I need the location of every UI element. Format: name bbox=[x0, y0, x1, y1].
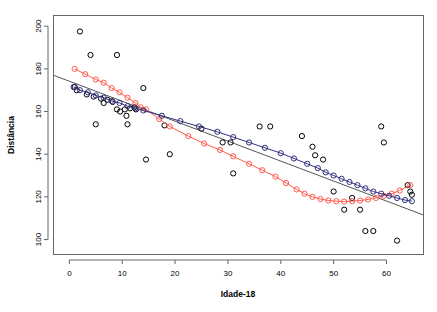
figure-background bbox=[0, 0, 437, 312]
x-axis-title: Idade-18 bbox=[221, 289, 256, 299]
scatter-plot-figure: 0102030405060100120140160180200 Idade-18… bbox=[0, 0, 437, 312]
x-tick-label: 60 bbox=[382, 269, 391, 278]
y-tick-label: 160 bbox=[34, 104, 43, 118]
x-tick-label: 50 bbox=[329, 269, 338, 278]
x-tick-label: 40 bbox=[276, 269, 285, 278]
y-tick-label: 100 bbox=[34, 232, 43, 246]
x-tick-label: 10 bbox=[118, 269, 127, 278]
plot-canvas: 0102030405060100120140160180200 Idade-18… bbox=[0, 0, 437, 312]
x-tick-label: 0 bbox=[67, 269, 72, 278]
y-tick-label: 180 bbox=[34, 62, 43, 76]
y-tick-label: 120 bbox=[34, 190, 43, 204]
y-axis-title: Distância bbox=[6, 116, 16, 154]
y-tick-label: 140 bbox=[34, 147, 43, 161]
x-tick-label: 20 bbox=[171, 269, 180, 278]
y-tick-label: 200 bbox=[34, 19, 43, 33]
x-tick-label: 30 bbox=[223, 269, 232, 278]
